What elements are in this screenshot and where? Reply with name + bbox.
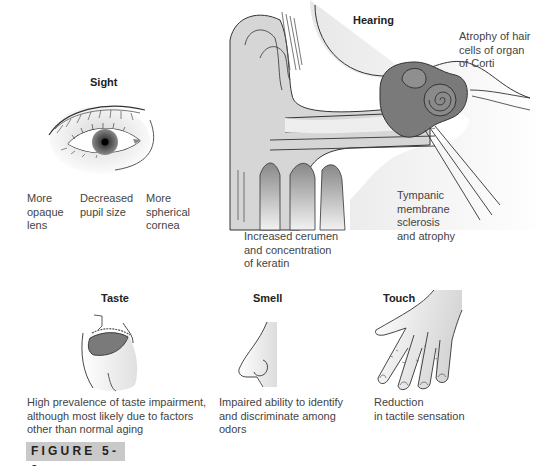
smell-annotation: Impaired ability to identify and discrim…: [219, 396, 343, 437]
sight-annotation-pupil: Decreased pupil size: [80, 192, 133, 219]
taste-annotation: High prevalence of taste impairment, alt…: [27, 396, 206, 437]
taste-title: Taste: [101, 292, 129, 304]
touch-annotation: Reduction in tactile sensation: [374, 396, 465, 423]
sight-title: Sight: [90, 76, 118, 88]
sight-annotation-lens: More opaque lens: [27, 192, 64, 233]
hearing-title: Hearing: [353, 14, 394, 26]
hand-icon: [372, 290, 462, 385]
hearing-annotation-cerumen: Increased cerumen and concentration of k…: [244, 230, 338, 271]
eye-icon: [45, 95, 155, 175]
nose-icon: [237, 322, 277, 387]
hearing-annotation-tympanic: Tympanic membrane sclerosis and atrophy: [397, 189, 455, 243]
mouth-tongue-icon: [78, 313, 148, 393]
smell-title: Smell: [253, 292, 282, 304]
figure-label: FIGURE 5-9: [26, 442, 125, 461]
sight-annotation-cornea: More spherical cornea: [146, 192, 190, 233]
hearing-annotation-corti: Atrophy of hair cells of organ of Corti: [459, 30, 531, 71]
